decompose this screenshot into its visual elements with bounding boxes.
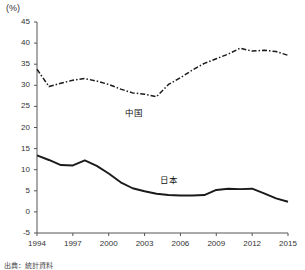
y-tick-label: 0 xyxy=(8,208,30,216)
x-tick-label: 1994 xyxy=(20,240,54,248)
y-tick-label: 45 xyxy=(8,18,30,26)
y-tick-label: 30 xyxy=(8,81,30,89)
series-label-中国: 中国 xyxy=(125,106,143,118)
y-tick-label: 35 xyxy=(8,60,30,68)
x-tick-label: 1997 xyxy=(56,240,90,248)
y-tick-label: 10 xyxy=(8,166,30,174)
y-tick-label: 25 xyxy=(8,102,30,110)
x-tick-label: 2015 xyxy=(271,240,305,248)
x-tick-label: 2009 xyxy=(199,240,233,248)
series-line-中国 xyxy=(37,48,288,97)
y-tick-label: 15 xyxy=(8,145,30,153)
y-tick-label: 20 xyxy=(8,124,30,132)
y-tick-label: -5 xyxy=(8,229,30,237)
x-tick-label: 2012 xyxy=(235,240,269,248)
x-tick-label: 2006 xyxy=(163,240,197,248)
x-tick-label: 2000 xyxy=(92,240,126,248)
y-tick-label: 5 xyxy=(8,187,30,195)
source-note: 出典：統計資料 xyxy=(4,260,53,270)
series-label-日本: 日本 xyxy=(160,173,178,185)
y-tick-label: 40 xyxy=(8,39,30,47)
x-tick-label: 2003 xyxy=(128,240,162,248)
